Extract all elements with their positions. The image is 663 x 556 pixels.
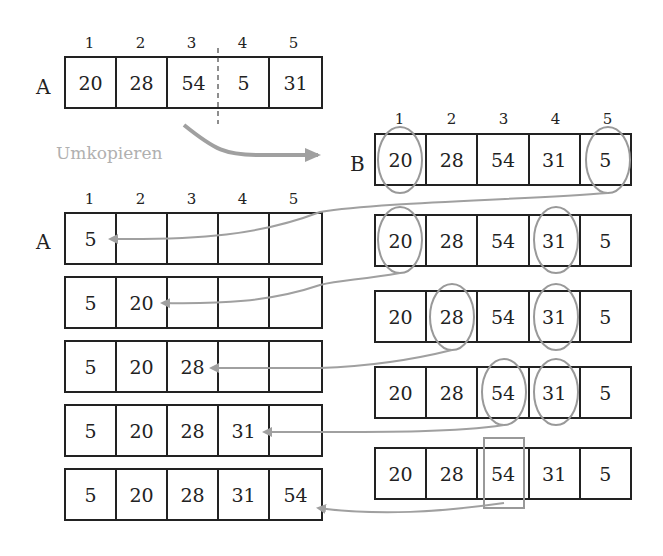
compare-highlight [586, 127, 630, 193]
move-arrow [318, 503, 504, 512]
move-arrow [211, 350, 452, 368]
move-arrow [264, 425, 504, 432]
last-element-highlight [484, 438, 524, 508]
compare-highlight [534, 207, 578, 273]
move-arrow [162, 273, 400, 303]
diagram-overlay [0, 0, 663, 556]
compare-highlight [378, 207, 422, 273]
compare-highlight [534, 359, 578, 425]
move-arrow [110, 193, 608, 239]
compare-highlight [378, 127, 422, 193]
compare-highlight [482, 359, 526, 425]
compare-highlight [430, 284, 474, 350]
compare-highlight [534, 284, 578, 350]
umkopieren-arrow [184, 125, 318, 155]
